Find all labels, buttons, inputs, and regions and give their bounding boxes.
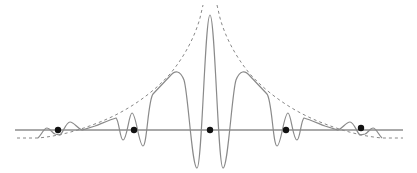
- waveform: [38, 15, 382, 168]
- zero-dot-2: [131, 127, 137, 133]
- zero-dot-3: [207, 127, 213, 133]
- zero-dot-5: [358, 125, 364, 131]
- zero-dot-1: [55, 127, 61, 133]
- waveform-diagram: [0, 0, 417, 173]
- zero-dot-4: [283, 127, 289, 133]
- diagram-canvas: [0, 0, 417, 173]
